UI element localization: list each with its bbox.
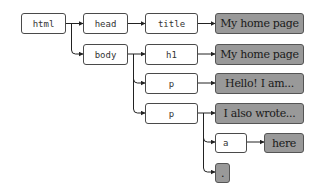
node-p-2: p [145,103,198,124]
node-p-1: p [145,73,198,94]
text-node-period: . [215,163,230,183]
node-body: body [83,44,128,65]
node-html: html [21,13,66,34]
node-title: title [145,13,198,34]
node-h1: h1 [145,44,198,65]
text-node-a: here [264,133,304,153]
text-node-h1: My home page [215,44,304,65]
dom-tree-diagram: html head body title h1 p p My home page… [0,0,323,194]
node-a: a [215,133,247,153]
text-node-p2: I also wrote... [215,103,304,124]
node-head: head [83,13,128,34]
text-node-p1: Hello! I am... [215,73,304,94]
text-node-title: My home page [215,13,304,34]
